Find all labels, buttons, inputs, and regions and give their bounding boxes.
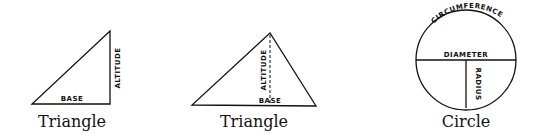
- radius-label: RADIUS: [474, 68, 482, 101]
- diameter-label: DIAMETER: [444, 51, 489, 59]
- scalene-triangle: BASE ALTITUDE Triangle: [192, 33, 316, 131]
- base-label: BASE: [259, 97, 282, 105]
- right-triangle: BASE ALTITUDE Triangle: [32, 31, 122, 131]
- circle: DIAMETER RADIUS CIRCUMFERENCE Circle: [416, 2, 516, 131]
- base-label: BASE: [61, 95, 84, 103]
- geometry-figures: BASE ALTITUDE Triangle BASE ALTITUDE Tri…: [0, 0, 539, 134]
- figures-svg: BASE ALTITUDE Triangle BASE ALTITUDE Tri…: [0, 0, 539, 134]
- altitude-label: ALTITUDE: [260, 49, 268, 90]
- altitude-label: ALTITUDE: [114, 47, 122, 88]
- caption: Circle: [442, 112, 491, 131]
- circumference-label: CIRCUMFERENCE: [430, 2, 505, 25]
- caption: Triangle: [38, 112, 106, 131]
- caption: Triangle: [220, 112, 288, 131]
